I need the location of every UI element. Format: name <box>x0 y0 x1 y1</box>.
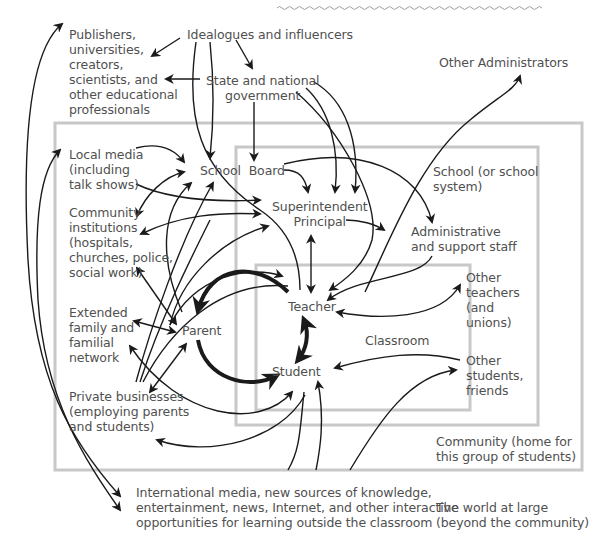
node-private-businesses: Private businesses (employing parents an… <box>69 389 189 434</box>
node-classroom: Classroom <box>365 333 429 348</box>
node-extended-family: Extended family and familial network <box>69 305 134 365</box>
node-idealogues: Idealogues and influencers <box>187 27 353 42</box>
wavy-rule <box>277 7 542 10</box>
node-local-media: Local media (including talk shows) <box>69 147 143 192</box>
classroom-box <box>256 265 470 410</box>
node-publishers: Publishers, universities, creators, scie… <box>69 27 178 117</box>
node-international-media: International media, new sources of know… <box>136 485 459 530</box>
node-parent: Parent <box>182 323 221 338</box>
node-state-government: State and national government <box>206 73 319 103</box>
node-other-students: Other students, friends <box>466 353 523 398</box>
node-school-board: School Board <box>200 163 285 178</box>
node-community-institutions: Community institutions (hospitals, churc… <box>69 205 173 280</box>
node-admin-staff: Administrative and support staff <box>411 224 517 254</box>
node-superintendent-principal: Superintendent Principal <box>272 199 368 229</box>
node-other-administrators: Other Administrators <box>439 55 568 70</box>
node-school-system: School (or school system) <box>433 164 538 194</box>
node-world-at-large: The world at large (beyond the community… <box>436 500 589 530</box>
node-community: Community (home for this group of studen… <box>436 434 576 464</box>
node-teacher: Teacher <box>288 299 336 314</box>
diagram-canvas: Publishers, universities, creators, scie… <box>0 0 602 548</box>
node-other-teachers: Other teachers (and unions) <box>466 270 520 330</box>
node-student: Student <box>272 364 321 379</box>
